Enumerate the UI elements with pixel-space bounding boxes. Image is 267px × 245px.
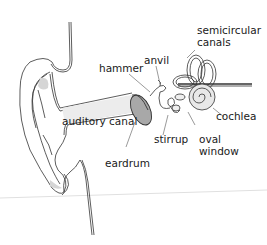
outer-ear xyxy=(20,22,94,235)
label-hammer: hammer xyxy=(99,62,143,74)
label-oval-window: oval window xyxy=(199,133,239,157)
ear-anatomy-diagram: semicircular canals anvil hammer cochlea… xyxy=(0,0,267,245)
label-cochlea: cochlea xyxy=(216,110,256,122)
label-auditory-canal: auditory canal xyxy=(62,115,137,127)
label-stirrup: stirrup xyxy=(154,133,188,145)
label-eardrum: eardrum xyxy=(105,157,150,169)
label-semicircular-canals: semicircular canals xyxy=(197,24,261,48)
label-anvil: anvil xyxy=(144,54,169,66)
cochlea xyxy=(189,84,215,110)
